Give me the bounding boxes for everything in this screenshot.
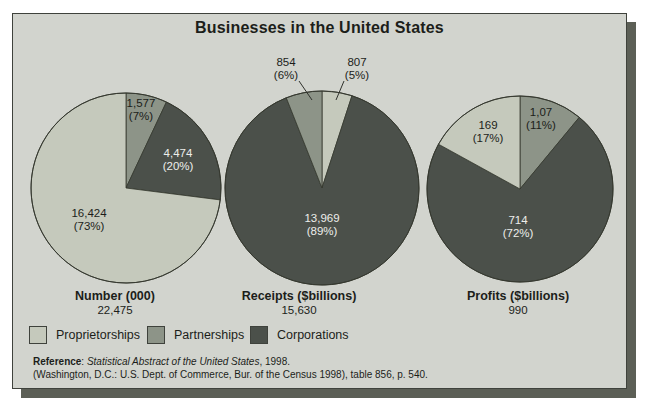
caption-total: 22,475 bbox=[25, 303, 205, 317]
pie-3-label-corporations: 714(72%) bbox=[470, 214, 566, 239]
pie-1-label-corporations: 4,474(20%) bbox=[130, 147, 226, 172]
slice-value: 714 bbox=[470, 214, 566, 227]
reference-year: , 1998. bbox=[259, 356, 290, 367]
pie-2-label-partnerships: 854(6%) bbox=[238, 56, 334, 81]
pie-3-caption: Profits ($billions)990 bbox=[428, 289, 608, 317]
legend-swatch-corporations bbox=[250, 326, 268, 344]
caption-total: 990 bbox=[428, 303, 608, 317]
legend-label: Proprietorships bbox=[56, 328, 140, 342]
slice-value: 169 bbox=[440, 119, 536, 132]
legend-label: Corporations bbox=[277, 328, 349, 342]
pie-2-label-corporations: 13,969(89%) bbox=[274, 212, 370, 237]
caption-title: Profits ($billions) bbox=[428, 289, 608, 303]
slice-percent: (6%) bbox=[238, 69, 334, 82]
pie-1-label-proprietorships: 16,424(73%) bbox=[41, 207, 137, 232]
slice-percent: (73%) bbox=[41, 220, 137, 233]
caption-total: 15,630 bbox=[209, 303, 389, 317]
caption-title: Number (000) bbox=[25, 289, 205, 303]
pie-2-caption: Receipts ($billions)15,630 bbox=[209, 289, 389, 317]
reference-text: Reference: Statistical Abstract of the U… bbox=[33, 356, 603, 381]
slice-percent: (20%) bbox=[130, 160, 226, 173]
slice-value: 854 bbox=[238, 56, 334, 69]
slice-value: 1,07 bbox=[493, 106, 589, 119]
slice-value: 13,969 bbox=[274, 212, 370, 225]
slice-value: 16,424 bbox=[41, 207, 137, 220]
slice-percent: (89%) bbox=[274, 225, 370, 238]
pie-3-label-proprietorships: 169(17%) bbox=[440, 119, 536, 144]
pie-1-caption: Number (000)22,475 bbox=[25, 289, 205, 317]
slice-percent: (7%) bbox=[93, 110, 189, 123]
caption-title: Receipts ($billions) bbox=[209, 289, 389, 303]
reference-publisher-line: (Washington, D.C.: U.S. Dept. of Commerc… bbox=[33, 369, 428, 380]
pie-1-label-partnerships: 1,577(7%) bbox=[93, 97, 189, 122]
legend-swatch-proprietorships bbox=[29, 326, 47, 344]
legend-label: Partnerships bbox=[174, 328, 244, 342]
slice-percent: (72%) bbox=[470, 227, 566, 240]
reference-source-title: Statistical Abstract of the United State… bbox=[87, 356, 260, 367]
figure: Businesses in the United States 1,577(7%… bbox=[0, 0, 647, 407]
slice-percent: (17%) bbox=[440, 132, 536, 145]
legend-swatch-partnerships bbox=[147, 326, 165, 344]
slice-value: 4,474 bbox=[130, 147, 226, 160]
reference-label: Reference bbox=[33, 356, 81, 367]
slice-value: 1,577 bbox=[93, 97, 189, 110]
